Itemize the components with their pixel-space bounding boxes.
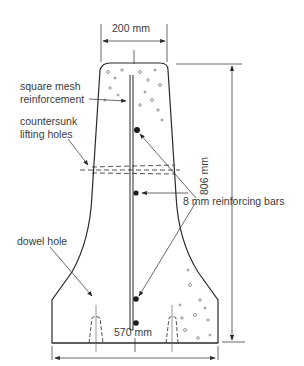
lifting-label-line1: countersunk [20,115,77,127]
bollard-diagram [0,0,304,366]
top-width-label: 200 mm [112,22,150,34]
mesh-label-line2: reinforcement [20,93,84,105]
base-width-label: 570 mm [114,326,152,338]
dowel-label: dowel hole [17,235,67,247]
height-label: 806 mm [198,157,210,195]
bars-label: 8 mm reinforcing bars [183,195,285,207]
lifting-label-line2: lifting holes [20,128,73,140]
mesh-label-line1: square mesh [20,80,81,92]
